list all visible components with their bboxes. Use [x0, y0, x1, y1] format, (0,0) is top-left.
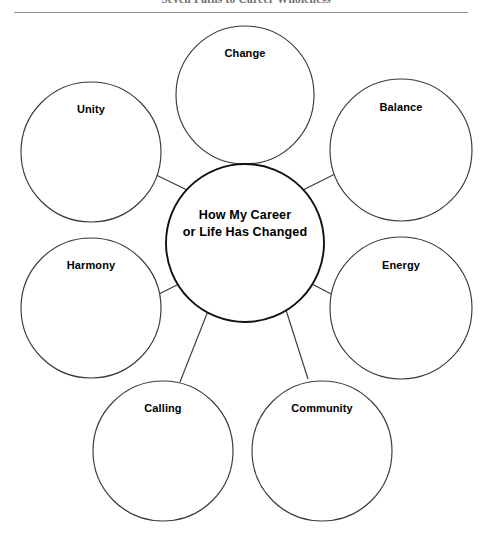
bubble-calling[interactable]: Calling	[93, 381, 233, 521]
bubble-harmony[interactable]: Harmony	[21, 238, 161, 378]
center-bubble-label-line-2: or Life Has Changed	[183, 225, 307, 239]
bubble-unity[interactable]: Unity	[21, 82, 161, 222]
bubble-label-community: Community	[291, 402, 353, 414]
bubble-balance[interactable]: Balance	[330, 79, 472, 221]
bubble-change[interactable]: Change	[176, 26, 314, 164]
bubble-label-change: Change	[225, 47, 266, 59]
bubble-label-unity: Unity	[77, 103, 106, 115]
bubble-map-diagram: ChangeBalanceEnergyCommunityCallingHarmo…	[0, 16, 492, 542]
connector-community	[286, 310, 308, 379]
bubble-label-energy: Energy	[382, 259, 421, 271]
bubble-label-calling: Calling	[144, 402, 181, 414]
bubble-energy[interactable]: Energy	[330, 237, 472, 379]
connector-calling	[180, 311, 208, 382]
bubble-label-balance: Balance	[380, 101, 423, 113]
center-bubble-circle[interactable]	[166, 164, 324, 322]
page-title: Seven Paths to Career Wholeness	[0, 0, 492, 5]
title-divider	[14, 12, 468, 13]
center-bubble-group: How My Careeror Life Has Changed	[166, 164, 324, 322]
center-bubble-label-line-1: How My Career	[199, 208, 291, 222]
bubble-label-harmony: Harmony	[67, 259, 116, 271]
bubble-community[interactable]: Community	[252, 381, 392, 521]
diagram-canvas: ChangeBalanceEnergyCommunityCallingHarmo…	[0, 16, 492, 542]
page-root: Seven Paths to Career Wholeness ChangeBa…	[0, 0, 492, 542]
